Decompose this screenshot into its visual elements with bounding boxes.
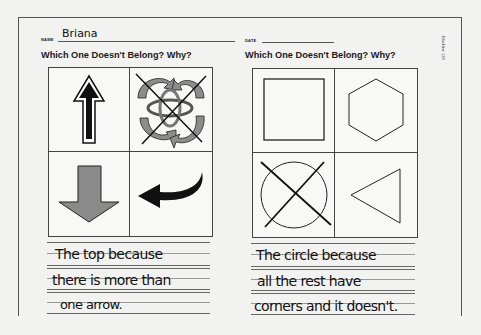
left-cell-top-right[interactable]: [130, 68, 212, 152]
left-title: Which One Doesn't Belong? Why?: [41, 50, 192, 60]
right-cell-top-left[interactable]: [253, 69, 335, 153]
right-cell-top-right[interactable]: [335, 69, 417, 153]
name-label: NAME: [41, 37, 54, 42]
left-cell-bottom-right[interactable]: [130, 152, 212, 236]
swirling-gray-arrows-icon: [130, 68, 212, 152]
black-up-arrow-icon: [49, 68, 130, 152]
date-line[interactable]: [262, 42, 334, 43]
left-answer-line-3[interactable]: one arrow.: [60, 297, 122, 312]
name-line: [58, 41, 235, 42]
right-cell-bottom-left[interactable]: [253, 153, 335, 237]
right-answer-line-3[interactable]: corners and it doesn't.: [254, 298, 398, 314]
date-label: DATE: [245, 38, 256, 43]
square-icon: [253, 69, 335, 153]
black-curved-left-arrow-icon: [130, 152, 212, 236]
side-label: Blackline 124: [441, 36, 446, 60]
circle-icon: [253, 153, 335, 237]
left-grid: [48, 67, 213, 237]
right-answer-line-2[interactable]: all the rest have: [257, 273, 361, 289]
right-title: Which One Doesn't Belong? Why?: [245, 50, 396, 60]
left-cell-bottom-left[interactable]: [49, 152, 130, 236]
name-value[interactable]: Briana: [62, 27, 98, 40]
left-answer-line-1[interactable]: The top because: [55, 246, 162, 262]
right-answer-line-1[interactable]: The circle because: [256, 247, 376, 263]
hexagon-icon: [335, 69, 417, 153]
triangle-icon: [335, 153, 417, 237]
right-cell-bottom-right[interactable]: [335, 153, 417, 237]
gray-down-arrow-icon: [49, 152, 130, 236]
right-grid: [252, 68, 418, 238]
left-cell-top-left[interactable]: [49, 68, 130, 152]
left-answer-line-2[interactable]: there is more than: [52, 272, 171, 288]
